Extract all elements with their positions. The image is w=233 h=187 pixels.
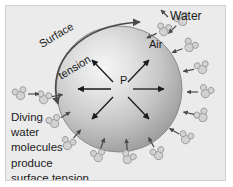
- water-molecule: [11, 86, 28, 102]
- figure-container: Air Water P Surface tension Diving water…: [0, 0, 233, 187]
- water-molecule: [178, 130, 195, 145]
- water-molecule: [149, 146, 167, 162]
- molecule-inward-arrow: [183, 69, 194, 71]
- caption-line-5: surface tension: [11, 171, 89, 181]
- water-molecule: [156, 22, 172, 36]
- label-water: Water: [170, 10, 202, 23]
- label-pressure: P: [120, 74, 127, 86]
- diagram-plate: Air Water P Surface tension Diving water…: [5, 5, 226, 181]
- molecule-inward-arrow: [183, 112, 194, 114]
- molecule-inward-arrow: [170, 129, 180, 135]
- surface-tension-line-2: tension: [56, 51, 95, 81]
- water-label-pointer-arrow: [161, 10, 168, 17]
- caption-line-1: Diving: [11, 110, 89, 125]
- water-molecule: [197, 84, 215, 100]
- caption-line-3: molecules: [11, 140, 89, 155]
- caption-line-4: produce: [11, 156, 89, 171]
- label-air: Air: [149, 38, 162, 50]
- molecule-atom: [157, 22, 164, 29]
- water-molecule: [194, 60, 211, 75]
- molecule-inward-arrow: [172, 49, 182, 53]
- water-molecule: [36, 90, 52, 105]
- caption-block: Diving water molecules produce surface t…: [11, 110, 89, 181]
- water-molecule: [181, 37, 199, 55]
- caption-line-2: water: [11, 125, 89, 140]
- molecule-atom: [98, 149, 105, 156]
- molecule-atom: [90, 150, 97, 157]
- surface-tension-line-1: Surface: [37, 20, 76, 50]
- water-molecule: [193, 107, 211, 125]
- molecule-atom: [165, 24, 172, 31]
- water-molecule: [90, 148, 106, 162]
